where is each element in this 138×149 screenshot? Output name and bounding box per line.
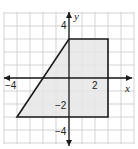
x-axis-right-arrow-icon xyxy=(126,75,132,81)
y-tick-label-neg2: −2 xyxy=(55,100,67,111)
coordinate-plane: y x −4 2 4 −2 −4 xyxy=(0,0,138,149)
y-tick-label-neg4: −4 xyxy=(55,126,67,137)
x-tick-label-2: 2 xyxy=(92,80,98,91)
y-axis-label: y xyxy=(73,10,79,22)
x-axis-label: x xyxy=(124,82,130,94)
x-tick-label-neg4: −4 xyxy=(5,80,17,91)
y-tick-label-4: 4 xyxy=(61,20,67,31)
